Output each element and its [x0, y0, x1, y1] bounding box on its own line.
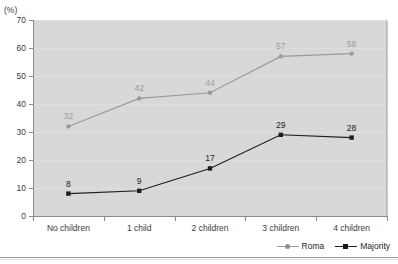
x-axis-tick: [33, 217, 34, 221]
data-point-label: 44: [205, 78, 214, 88]
gridline: [33, 48, 386, 49]
y-axis-tick-label: 10: [6, 183, 26, 193]
x-axis-category-label: No children: [47, 223, 90, 233]
data-point-label: 57: [276, 41, 285, 51]
plot-area: [33, 20, 387, 216]
y-axis-tick: [29, 48, 33, 49]
gridline: [33, 188, 386, 189]
x-axis-category-label: 4 children: [333, 223, 370, 233]
y-axis-tick-label: 70: [6, 15, 26, 25]
data-point-label: 42: [134, 83, 143, 93]
y-axis-unit-label: (%): [4, 5, 17, 15]
x-axis-tick: [316, 217, 317, 221]
x-axis-line: [33, 216, 388, 217]
x-axis-tick: [245, 217, 246, 221]
legend-marker-majority-icon: [335, 242, 357, 250]
x-axis-category-label: 2 children: [192, 223, 229, 233]
clipped-header-text: [12, 0, 342, 5]
y-axis-tick: [29, 20, 33, 21]
y-axis-tick-label: 20: [6, 155, 26, 165]
data-point-label: 9: [137, 176, 142, 186]
y-axis-tick: [29, 104, 33, 105]
x-axis-category-label: 3 children: [262, 223, 299, 233]
x-axis-category-label: 1 child: [127, 223, 152, 233]
y-axis-tick-label: 60: [6, 43, 26, 53]
legend: Roma Majority: [277, 241, 390, 251]
y-axis-tick-label: 0: [6, 211, 26, 221]
y-axis-tick: [29, 76, 33, 77]
footer-divider: [0, 257, 398, 258]
y-axis-tick: [29, 132, 33, 133]
line-chart: (%) 010203040506070 No children1 child2 …: [0, 0, 398, 264]
legend-label-majority: Majority: [360, 241, 390, 251]
x-axis-tick: [387, 217, 388, 221]
gridline: [33, 104, 386, 105]
legend-label-roma: Roma: [302, 241, 325, 251]
legend-marker-roma-icon: [277, 242, 299, 250]
data-point-label: 8: [66, 179, 71, 189]
footer-divider-light: [0, 259, 398, 260]
data-point-label: 32: [64, 111, 73, 121]
gridline: [33, 132, 386, 133]
y-axis-tick-label: 50: [6, 71, 26, 81]
data-point-label: 29: [276, 120, 285, 130]
legend-item-roma[interactable]: Roma: [277, 241, 325, 251]
y-axis-tick-label: 40: [6, 99, 26, 109]
legend-item-majority[interactable]: Majority: [335, 241, 390, 251]
y-axis-line: [33, 20, 34, 217]
y-axis-tick: [29, 188, 33, 189]
x-axis-tick: [104, 217, 105, 221]
data-point-label: 28: [347, 123, 356, 133]
gridline: [33, 20, 386, 21]
data-point-label: 58: [347, 39, 356, 49]
data-point-label: 17: [205, 153, 214, 163]
y-axis-tick-label: 30: [6, 127, 26, 137]
x-axis-tick: [175, 217, 176, 221]
y-axis-tick: [29, 160, 33, 161]
